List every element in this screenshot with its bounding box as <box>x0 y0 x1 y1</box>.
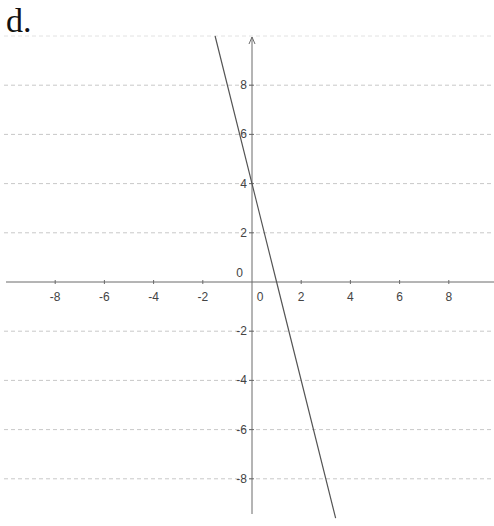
y-tick-label: -6 <box>236 423 247 437</box>
y-tick-label: -2 <box>236 324 247 338</box>
x-tick-label: 8 <box>445 290 452 304</box>
y-tick-label: 0 <box>236 266 243 280</box>
x-tick-label: 4 <box>347 290 354 304</box>
x-tick-label: -2 <box>197 290 208 304</box>
y-tick-label: -4 <box>236 373 247 387</box>
x-tick-label: 2 <box>298 290 305 304</box>
y-tick-label: 8 <box>240 78 247 92</box>
x-tick-label: -6 <box>99 290 110 304</box>
series-line <box>215 36 336 518</box>
graph-plot: -8-6-4-202468-8-6-4-202468 <box>0 0 494 526</box>
grid-lines <box>4 36 494 479</box>
y-tick-label: -8 <box>236 472 247 486</box>
x-tick-label: 0 <box>257 290 264 304</box>
y-tick-label: 4 <box>240 177 247 191</box>
data-series <box>215 36 336 518</box>
y-tick-label: 2 <box>240 226 247 240</box>
axes <box>6 37 494 514</box>
x-tick-label: 6 <box>396 290 403 304</box>
x-tick-label: -8 <box>50 290 61 304</box>
x-tick-label: -4 <box>148 290 159 304</box>
